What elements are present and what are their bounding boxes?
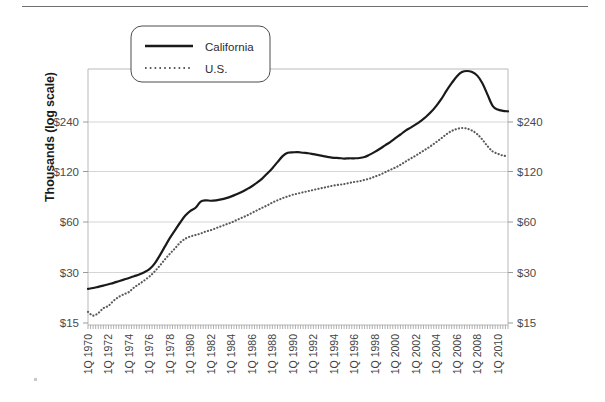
x-tick-marks (88, 325, 508, 329)
y-tick-label-right: $240 (517, 116, 543, 128)
x-axis-tick-labels: 1Q 19701Q 19721Q 19741Q 19761Q 19781Q 19… (82, 334, 504, 374)
x-tick-label: 1Q 1996 (348, 334, 360, 374)
y-axis-tick-labels-right: $240$120$60$30$15 (517, 116, 543, 329)
y-tick-label-left: $30 (60, 267, 79, 279)
legend-label: California (205, 41, 254, 53)
x-tick-label: 1Q 1994 (328, 334, 340, 374)
figure-container: Thousands (log scale) $240$120$60$30$15 … (0, 0, 605, 402)
x-tick-label: 1Q 2000 (389, 334, 401, 374)
x-tick-label: 1Q 1976 (143, 334, 155, 374)
legend-label: U.S. (205, 63, 227, 75)
x-tick-label: 1Q 1972 (102, 334, 114, 374)
x-tick-label: 1Q 2010 (492, 334, 504, 374)
x-tick-label: 1Q 1982 (205, 334, 217, 374)
x-tick-label: 1Q 1980 (184, 334, 196, 374)
x-tick-label: 1Q 1990 (287, 334, 299, 374)
x-tick-label: 1Q 1978 (164, 334, 176, 374)
line-chart: $240$120$60$30$15 $240$120$60$30$15 1Q 1… (0, 0, 605, 402)
data-series-group (88, 71, 508, 316)
x-tick-label: 1Q 1970 (82, 334, 94, 374)
x-tick-label: 1Q 2004 (430, 334, 442, 374)
y-axis-tick-labels-left: $240$120$60$30$15 (53, 116, 79, 329)
x-tick-label: 1Q 1986 (246, 334, 258, 374)
x-tick-label: 1Q 2002 (410, 334, 422, 374)
y-tick-label-right: $15 (517, 317, 536, 329)
x-tick-label: 1Q 2008 (471, 334, 483, 374)
y-tick-label-right: $30 (517, 267, 536, 279)
legend-box (131, 26, 270, 82)
y-tick-label-left: $240 (53, 116, 79, 128)
x-tick-label: 1Q 1992 (307, 334, 319, 374)
plot-frame (88, 69, 508, 325)
y-tick-marks-right (508, 122, 513, 323)
y-tick-marks-left (83, 122, 88, 323)
y-tick-label-right: $120 (517, 166, 543, 178)
y-tick-label-left: $15 (60, 317, 79, 329)
y-tick-label-left: $120 (53, 166, 79, 178)
gridlines-group (88, 122, 508, 273)
y-tick-label-right: $60 (517, 216, 536, 228)
y-tick-label-left: $60 (60, 216, 79, 228)
x-tick-label: 1Q 1988 (266, 334, 278, 374)
x-tick-label: 1Q 2006 (451, 334, 463, 374)
x-tick-label: 1Q 1974 (123, 334, 135, 374)
x-tick-label: 1Q 1998 (369, 334, 381, 374)
x-tick-label: 1Q 1984 (225, 334, 237, 374)
series-line-california (88, 71, 508, 289)
chart-legend: CaliforniaU.S. (131, 26, 270, 82)
